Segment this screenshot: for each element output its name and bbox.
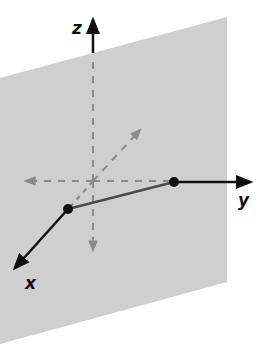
y-axis-label: y (238, 190, 250, 210)
x-intercept-point (63, 204, 73, 214)
x-axis-label: x (24, 273, 37, 293)
coordinate-plane-diagram: z y x (0, 0, 260, 344)
z-axis-label: z (71, 18, 82, 38)
y-intercept-point (169, 177, 179, 187)
